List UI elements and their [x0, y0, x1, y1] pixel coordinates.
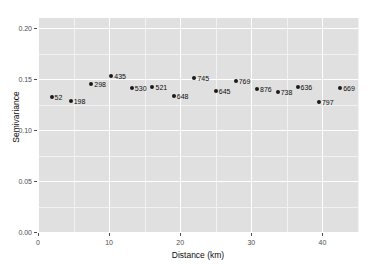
data-point-label: 521: [155, 84, 167, 91]
data-point-label: 669: [343, 85, 355, 92]
y-minor-gridline: [38, 207, 358, 208]
y-major-gridline: [38, 130, 358, 131]
x-minor-gridline: [145, 18, 146, 232]
x-axis-tick: [38, 233, 39, 236]
data-point: [317, 100, 321, 104]
data-point-label: 876: [260, 86, 272, 93]
x-major-gridline: [322, 18, 323, 232]
y-axis-tick: [34, 79, 37, 80]
y-axis-tick-label: 0.00: [4, 229, 32, 236]
data-point: [109, 74, 113, 78]
y-axis-title: Semivariance: [11, 57, 21, 177]
data-point: [50, 95, 54, 99]
data-point-label: 198: [74, 98, 86, 105]
x-major-gridline: [38, 18, 39, 232]
x-minor-gridline: [74, 18, 75, 232]
data-point: [234, 79, 238, 83]
x-minor-gridline: [358, 18, 359, 232]
y-axis-tick: [34, 232, 37, 233]
x-axis-tick: [322, 233, 323, 236]
x-major-gridline: [251, 18, 252, 232]
y-minor-gridline: [38, 105, 358, 106]
x-axis-tick: [251, 233, 252, 236]
data-point-label: 769: [239, 78, 251, 85]
data-point-label: 530: [135, 85, 147, 92]
x-major-gridline: [180, 18, 181, 232]
y-minor-gridline: [38, 156, 358, 157]
data-point-label: 435: [114, 73, 126, 80]
y-axis-tick: [34, 181, 37, 182]
x-axis-tick-label: 40: [310, 239, 334, 246]
plot-panel: [38, 18, 358, 232]
data-point: [69, 99, 73, 103]
x-axis-tick: [180, 233, 181, 236]
semivariogram-chart: 0.000.050.100.150.2001020304052198298435…: [0, 0, 367, 268]
data-point-label: 797: [322, 99, 334, 106]
x-major-gridline: [109, 18, 110, 232]
y-axis-tick: [34, 28, 37, 29]
x-minor-gridline: [287, 18, 288, 232]
data-point-label: 738: [281, 89, 293, 96]
x-minor-gridline: [216, 18, 217, 232]
x-axis-tick: [109, 233, 110, 236]
x-axis-title: Distance (km): [38, 250, 358, 260]
y-major-gridline: [38, 181, 358, 182]
y-major-gridline: [38, 28, 358, 29]
x-axis-tick-label: 0: [26, 239, 50, 246]
data-point-label: 645: [219, 88, 231, 95]
data-point: [255, 87, 259, 91]
y-axis-tick-label: 0.20: [4, 25, 32, 32]
y-minor-gridline: [38, 54, 358, 55]
x-axis-tick-label: 10: [97, 239, 121, 246]
x-axis-tick-label: 20: [168, 239, 192, 246]
y-axis-tick: [34, 130, 37, 131]
data-point-label: 745: [197, 75, 209, 82]
x-axis-tick-label: 30: [239, 239, 263, 246]
y-major-gridline: [38, 232, 358, 233]
data-point-label: 648: [177, 93, 189, 100]
data-point: [296, 85, 300, 89]
data-point-label: 52: [55, 94, 63, 101]
y-axis-tick-label: 0.05: [4, 178, 32, 185]
data-point-label: 298: [94, 81, 106, 88]
data-point-label: 636: [301, 84, 313, 91]
